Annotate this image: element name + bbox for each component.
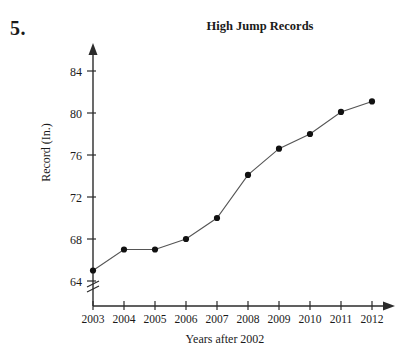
data-point-marker xyxy=(369,98,375,104)
data-point-marker xyxy=(276,146,282,152)
y-axis-arrowhead xyxy=(89,43,98,55)
x-tick-label: 2010 xyxy=(299,313,322,325)
x-tick-label: 2006 xyxy=(175,313,198,325)
data-point-marker xyxy=(121,246,127,252)
line-chart-plot: 646872768084 200320042005200620072008200… xyxy=(0,0,413,359)
data-point-marker xyxy=(183,236,189,242)
y-tick-label: 84 xyxy=(70,65,82,79)
data-point-marker xyxy=(152,246,158,252)
x-tick-label: 2012 xyxy=(361,313,384,325)
y-tick-label: 80 xyxy=(70,107,82,121)
data-point-marker xyxy=(338,109,344,115)
x-tick-label: 2009 xyxy=(268,313,291,325)
x-tick-label: 2011 xyxy=(330,313,353,325)
x-tick-label: 2005 xyxy=(144,313,167,325)
x-axis-arrowhead xyxy=(383,302,395,311)
x-tick-label: 2008 xyxy=(237,313,260,325)
x-tick-label: 2007 xyxy=(206,313,229,325)
data-points xyxy=(90,98,375,273)
y-tick-label: 76 xyxy=(70,149,82,163)
data-point-marker xyxy=(214,215,220,221)
y-tick-label: 64 xyxy=(70,275,82,289)
data-point-marker xyxy=(245,172,251,178)
x-axis-ticks: 2003200420052006200720082009201020112012 xyxy=(82,301,384,325)
x-tick-label: 2004 xyxy=(113,313,136,325)
y-tick-label: 68 xyxy=(70,233,82,247)
data-point-marker xyxy=(307,131,313,137)
data-point-marker xyxy=(90,267,96,273)
x-tick-label: 2003 xyxy=(82,313,105,325)
data-line xyxy=(93,101,372,270)
y-axis-ticks: 646872768084 xyxy=(70,65,96,289)
y-tick-label: 72 xyxy=(70,191,82,205)
